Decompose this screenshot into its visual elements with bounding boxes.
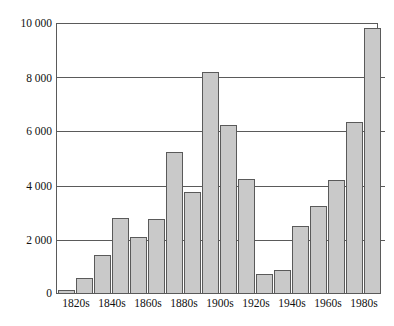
y-axis-tick-label-0: 0 [2,287,52,299]
y-axis-tick-label-8000: 8 000 [2,72,52,84]
bar-chart: 10 000 8 000 6 000 4 000 2 000 0 1820s 1… [0,0,394,326]
bar-1 [76,278,93,294]
x-axis-tick-label-1980s: 1980s [334,297,394,309]
bar-17 [364,28,381,294]
y-axis-tick-label-10000: 10 000 [2,17,52,29]
bar-3 [112,218,129,294]
bar-4 [130,237,147,294]
bar-9 [220,125,237,294]
y-axis-tick-label-4000: 4 000 [2,180,52,192]
bar-5 [148,219,165,294]
bar-10 [238,179,255,294]
bar-14 [310,206,327,294]
bar-0 [58,290,75,294]
bar-12 [274,270,291,294]
y-axis-tick-label-2000: 2 000 [2,234,52,246]
bar-15 [328,180,345,294]
bar-7 [184,192,201,294]
bar-2 [94,255,111,294]
bar-6 [166,152,183,294]
bar-13 [292,226,309,294]
bar-11 [256,274,273,294]
bar-16 [346,122,363,294]
bar-8 [202,72,219,294]
y-axis-tick-label-6000: 6 000 [2,125,52,137]
